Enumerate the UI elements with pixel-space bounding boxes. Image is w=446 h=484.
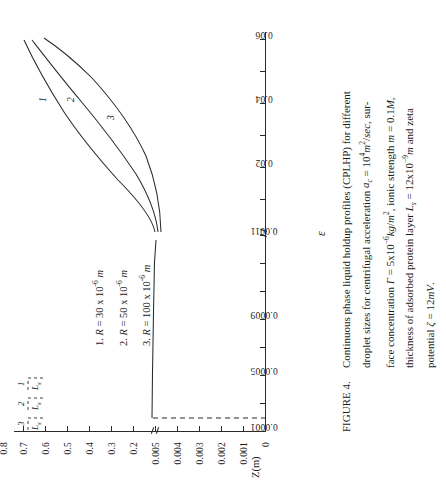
legend-value-2: 50	[117, 307, 128, 318]
legend-times-1: x	[94, 300, 105, 305]
y-tick-label: 0.5	[63, 442, 73, 454]
legend-mantissa-3: 10	[141, 281, 152, 292]
legend-exponent-2: -6	[115, 280, 124, 286]
y-tick-label: 0.7	[19, 442, 29, 454]
legend: 1. R = 30 x 10-6 m 2. R = 50 x 10-6 m 3.…	[86, 265, 157, 346]
legend-value-3: 100	[141, 302, 152, 318]
y-tick-label: 0.005	[151, 442, 161, 464]
y-tick-label: 0.004	[173, 442, 183, 464]
figure-number: FIGURE 4.	[338, 368, 355, 432]
legend-unit-1: m	[94, 270, 105, 278]
y-tick-label: 0.002	[217, 442, 227, 464]
y-tick-label: 0	[261, 442, 271, 447]
legend-equals-2: =	[117, 321, 128, 327]
legend-equals-1: =	[94, 321, 105, 327]
caption-line-2: droplet sizes for centrifugal accelerati…	[355, 40, 379, 368]
legend-exponent-1: -6	[91, 280, 100, 286]
legend-symbol-1: R	[94, 329, 105, 335]
rotated-page-frame: 0.0001 0.0005 0.0009 0.0011 0.02 0.04 0.…	[0, 0, 446, 484]
legend-index-2: 2.	[117, 338, 128, 346]
caption-line-3: face concentration Γ = 5x10−6kg/m2, ioni…	[379, 40, 398, 368]
y-tick-label: 0.003	[195, 442, 205, 464]
legend-mantissa-1: 10	[94, 286, 105, 297]
caption-line-1: Continuous phase liquid holdup profiles …	[338, 40, 355, 368]
curve-label-2: 2	[66, 97, 76, 102]
figure-caption: FIGURE 4. Continuous phase liquid holdup…	[338, 40, 439, 432]
legend-unit-3: m	[141, 265, 152, 273]
curve-label-1: 1	[38, 97, 48, 102]
legend-times-2: x	[117, 300, 128, 305]
legend-index-3: 3.	[141, 338, 152, 346]
y-tick-label: 0.8	[0, 442, 9, 454]
curve-label-3: 3	[106, 115, 116, 120]
legend-equals-3: =	[141, 321, 152, 327]
legend-item-2: 2. R = 50 x 10-6 m	[110, 265, 134, 346]
caption-line-4: thickness of adsorbed protein layer Ls =…	[398, 40, 422, 368]
legend-item-3: 3. R = 100 x 10-6 m	[133, 265, 157, 346]
legend-value-1: 30	[94, 307, 105, 318]
legend-item-1: 1. R = 30 x 10-6 m	[86, 265, 110, 346]
y-axis-title: Z(m)	[250, 456, 261, 478]
figure-page: 0.0001 0.0005 0.0009 0.0011 0.02 0.04 0.…	[0, 0, 446, 484]
curve-3	[44, 38, 161, 232]
y-tick-label: 0.6	[41, 442, 51, 454]
legend-unit-2: m	[117, 270, 128, 278]
legend-mantissa-2: 10	[117, 286, 128, 297]
legend-symbol-2: R	[117, 329, 128, 335]
x-axis-title: ε	[314, 231, 329, 236]
legend-symbol-3: R	[141, 329, 152, 335]
legend-times-3: x	[141, 294, 152, 299]
ls-leader-lines	[14, 362, 54, 432]
legend-exponent-3: -6	[138, 275, 147, 281]
plot-area: 0.0001 0.0005 0.0009 0.0011 0.02 0.04 0.…	[14, 32, 266, 432]
y-tick-label: 0.3	[107, 442, 117, 454]
legend-index-1: 1.	[94, 338, 105, 346]
y-tick-label: 0.001	[239, 442, 249, 464]
y-tick-label: 0.4	[85, 442, 95, 454]
caption-line-5: potential ζ = 12mV.	[422, 40, 439, 368]
figure-caption-text: Continuous phase liquid holdup profiles …	[338, 40, 439, 368]
y-tick-label: 0.2	[129, 442, 139, 454]
